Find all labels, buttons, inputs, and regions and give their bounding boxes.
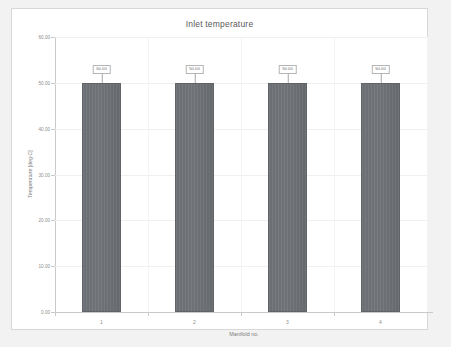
x-tick-label: 2 xyxy=(193,319,196,325)
y-tick-label: 10.00 xyxy=(39,264,51,269)
y-tick-label: 60.00 xyxy=(39,35,51,40)
bar[interactable] xyxy=(82,83,121,312)
x-tick-label: 1 xyxy=(100,319,103,325)
x-tick-mark xyxy=(148,312,149,316)
y-tick-mark xyxy=(51,37,55,38)
bar[interactable] xyxy=(175,83,214,312)
data-label-text: 50.00 xyxy=(278,65,296,74)
plot-area: 60.0050.0040.0030.0020.0010.000.00 xyxy=(55,37,427,312)
y-tick-label: 40.00 xyxy=(39,126,51,131)
y-tick-mark xyxy=(51,220,55,221)
category-axis-line xyxy=(55,312,433,313)
y-tick-label: 0.00 xyxy=(41,310,50,315)
x-tick-mark xyxy=(334,312,335,316)
data-label-leader-line xyxy=(101,74,102,83)
bar[interactable] xyxy=(268,83,307,312)
gridline-vertical xyxy=(241,37,242,312)
y-tick-mark xyxy=(51,83,55,84)
data-label-text: 50.00 xyxy=(185,65,203,74)
data-label: 50.00 xyxy=(185,65,203,74)
data-label-text: 50.00 xyxy=(371,65,389,74)
data-label: 50.00 xyxy=(371,65,389,74)
chart-title: Inlet temperature xyxy=(12,19,427,29)
gridline-vertical xyxy=(427,37,428,312)
data-label: 50.00 xyxy=(278,65,296,74)
data-label: 50.00 xyxy=(92,65,110,74)
y-tick-label: 20.00 xyxy=(39,218,51,223)
x-tick-mark xyxy=(241,312,242,316)
y-tick-label: 30.00 xyxy=(39,172,51,177)
data-label-leader-line xyxy=(287,74,288,83)
x-tick-label: 4 xyxy=(379,319,382,325)
y-tick-mark xyxy=(51,175,55,176)
y-axis-title: Temperature [deg-C] xyxy=(27,150,33,198)
y-tick-mark xyxy=(51,266,55,267)
data-label-leader-line xyxy=(380,74,381,83)
x-tick-mark xyxy=(55,312,56,316)
chart-card: Inlet temperature Temperature [deg-C] 60… xyxy=(11,8,428,330)
gridline-vertical xyxy=(334,37,335,312)
data-label-leader-line xyxy=(194,74,195,83)
gridline-vertical xyxy=(148,37,149,312)
bar[interactable] xyxy=(361,83,400,312)
y-tick-mark xyxy=(51,129,55,130)
x-tick-label: 3 xyxy=(286,319,289,325)
data-label-text: 50.00 xyxy=(92,65,110,74)
y-tick-label: 50.00 xyxy=(39,80,51,85)
x-axis-title: Manifold no. xyxy=(55,331,433,337)
